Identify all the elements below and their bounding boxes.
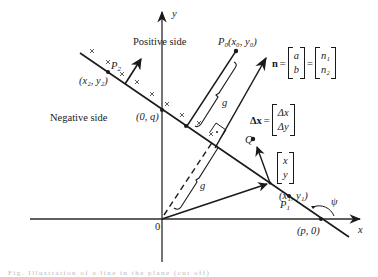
- y-intercept-label: (0, q): [136, 112, 159, 123]
- right-angle-marker: [210, 123, 226, 139]
- p2-label: P2: [111, 61, 121, 73]
- point-p2-dot: [106, 70, 110, 74]
- distance-brace-upper: [195, 62, 236, 127]
- p0-label: P0(x₀, y₀): [218, 37, 257, 49]
- perpendicular-p0: [187, 51, 236, 126]
- point-p0-q-dot: [319, 217, 323, 221]
- distance-g-upper-label: g: [222, 98, 227, 109]
- delta-vector-col: Δx Δy: [272, 104, 295, 136]
- position-vector: x y: [277, 152, 294, 184]
- angle-psi-label: ψ: [331, 197, 338, 208]
- delta-vector-equation: Δx = Δx Δy: [250, 104, 295, 136]
- y-axis-label: y: [172, 9, 177, 20]
- normal-vector-equation: n = a b = n₁ n₂: [272, 47, 336, 79]
- p1-label: P1: [280, 200, 290, 212]
- distance-g-lower-label: g: [200, 181, 205, 192]
- q-label: Q: [245, 135, 253, 146]
- negative-side-label: Negative side: [50, 113, 107, 124]
- origin-label: 0: [155, 222, 160, 233]
- p2-coords-label: (x₂, y₂): [79, 76, 108, 87]
- main-line: [80, 53, 349, 237]
- x-intercept-label: (p, 0): [297, 226, 320, 237]
- x-axis-label: x: [358, 225, 363, 236]
- positive-side-markers: [90, 49, 213, 136]
- normal-vector-ab: a b: [288, 47, 305, 79]
- figure-caption: Fig. Illustration of a line in the plane…: [8, 269, 210, 277]
- point-0q-dot: [160, 108, 164, 112]
- distance-brace-lower: [174, 145, 218, 209]
- normal-vector-n1n2: n₁ n₂: [315, 47, 336, 79]
- positive-side-label: Positive side: [133, 37, 186, 48]
- position-vector-arrow: [162, 184, 267, 219]
- line-geometry-diagram: [0, 0, 378, 277]
